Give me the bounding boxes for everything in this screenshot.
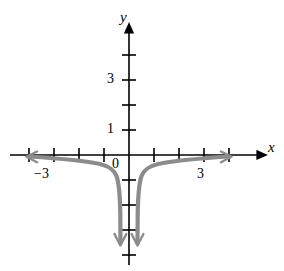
origin-label: 0 — [112, 157, 119, 171]
y-tick-label-1: 1 — [107, 122, 114, 136]
graph-figure: y x 0 1 3 −3 3 — [0, 0, 284, 271]
curve-right-branch — [138, 157, 230, 244]
y-axis — [122, 32, 136, 265]
x-axis-label: x — [268, 140, 275, 155]
y-axis-label: y — [120, 10, 127, 25]
plot-canvas — [0, 0, 284, 271]
x-tick-label-3: 3 — [197, 167, 204, 181]
x-tick-label-negative-3: −3 — [34, 167, 49, 181]
y-tick-label-3: 3 — [107, 72, 114, 86]
